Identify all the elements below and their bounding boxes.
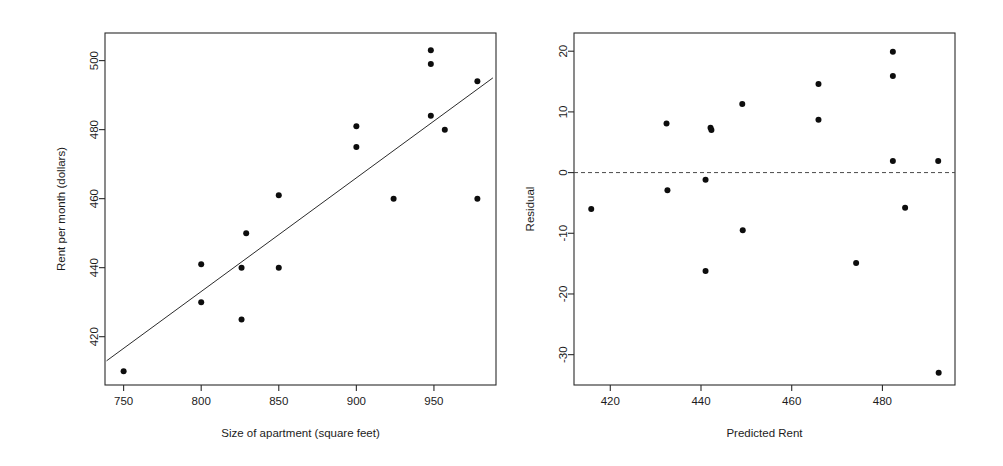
data-point [239, 316, 245, 322]
x-axis-tick-label: 800 [192, 395, 211, 407]
data-point [890, 49, 896, 55]
data-point [428, 47, 434, 53]
data-point [664, 187, 670, 193]
x-axis-tick-label: 460 [782, 395, 801, 407]
data-point [428, 61, 434, 67]
x-axis-title: Predicted Rent [726, 427, 803, 439]
data-point [391, 196, 397, 202]
data-point [276, 265, 282, 271]
y-axis-tick-label: 420 [88, 327, 100, 346]
plot-frame [574, 33, 955, 385]
x-axis-tick-label: 950 [424, 395, 443, 407]
data-point [815, 117, 821, 123]
plot-frame [105, 33, 496, 385]
y-axis-tick-label: 460 [88, 189, 100, 208]
data-point [739, 101, 745, 107]
data-point [890, 73, 896, 79]
data-point [890, 158, 896, 164]
left-plot-panel: 750800850900950420440460480500Size of ap… [0, 0, 510, 466]
data-point [740, 227, 746, 233]
x-axis-tick-label: 850 [269, 395, 288, 407]
data-point [276, 192, 282, 198]
y-axis-tick-label: -20 [557, 286, 569, 303]
data-point [428, 113, 434, 119]
data-point [708, 127, 714, 133]
y-axis-tick-label: 20 [557, 45, 569, 58]
regression-line [107, 78, 493, 361]
x-axis-tick-label: 440 [691, 395, 710, 407]
y-axis-tick-label: 480 [88, 120, 100, 139]
data-point [121, 368, 127, 374]
data-point [935, 158, 941, 164]
right-plot-panel: 420440460480-30-20-1001020Predicted Rent… [510, 0, 1003, 466]
data-point [902, 205, 908, 211]
y-axis-title: Residual [524, 187, 536, 232]
data-point [474, 78, 480, 84]
rent-vs-size-scatterplot: 750800850900950420440460480500Size of ap… [0, 0, 510, 466]
data-point [442, 127, 448, 133]
data-point [815, 81, 821, 87]
data-point [239, 265, 245, 271]
data-point [853, 260, 859, 266]
data-point [664, 120, 670, 126]
data-point [198, 299, 204, 305]
data-point [703, 177, 709, 183]
y-axis-tick-label: 440 [88, 258, 100, 277]
x-axis-tick-label: 750 [114, 395, 133, 407]
data-point [353, 123, 359, 129]
x-axis-tick-label: 420 [601, 395, 620, 407]
y-axis-tick-label: -30 [557, 346, 569, 363]
data-point [353, 144, 359, 150]
y-axis-tick-label: 0 [557, 169, 569, 175]
figure-panel-pair: 750800850900950420440460480500Size of ap… [0, 0, 1003, 466]
residual-vs-predicted-scatterplot: 420440460480-30-20-1001020Predicted Rent… [510, 0, 1003, 466]
x-axis-tick-label: 900 [347, 395, 366, 407]
data-point [588, 206, 594, 212]
y-axis-tick-label: 500 [88, 51, 100, 70]
y-axis-tick-label: -10 [557, 225, 569, 242]
data-point [474, 196, 480, 202]
y-axis-title: Rent per month (dollars) [55, 147, 67, 271]
y-axis-tick-label: 10 [557, 105, 569, 118]
data-point [936, 370, 942, 376]
data-point [243, 230, 249, 236]
data-point [198, 261, 204, 267]
x-axis-tick-label: 480 [873, 395, 892, 407]
data-point [703, 268, 709, 274]
x-axis-title: Size of apartment (square feet) [221, 427, 380, 439]
